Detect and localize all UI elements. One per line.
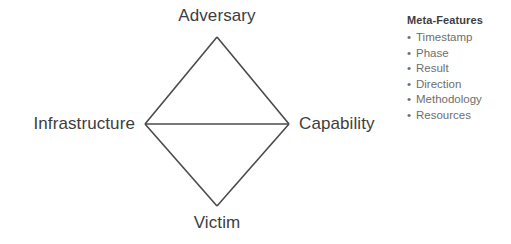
edge-victim-infrastructure <box>145 124 217 206</box>
node-label-victim: Victim <box>0 213 434 233</box>
node-label-capability: Capability <box>299 114 375 134</box>
edge-capability-victim <box>217 124 289 206</box>
list-item-label: Timestamp <box>416 31 472 43</box>
meta-features-list: • Timestamp • Phase • Result • Direction… <box>407 30 511 124</box>
list-item: • Direction <box>407 77 511 93</box>
list-item-label: Result <box>416 62 449 74</box>
edge-adversary-capability <box>217 37 289 124</box>
bullet-icon: • <box>407 108 411 124</box>
list-item-label: Methodology <box>416 93 482 105</box>
list-item-label: Phase <box>416 47 449 59</box>
list-item-label: Direction <box>416 78 461 90</box>
edge-infrastructure-adversary <box>145 37 217 124</box>
bullet-icon: • <box>407 77 411 93</box>
meta-features-panel: Meta-Features • Timestamp • Phase • Resu… <box>407 13 511 124</box>
node-label-infrastructure: Infrastructure <box>0 114 135 134</box>
bullet-icon: • <box>407 92 411 108</box>
list-item: • Resources <box>407 108 511 124</box>
bullet-icon: • <box>407 61 411 77</box>
meta-features-title: Meta-Features <box>407 13 511 28</box>
diamond-model-diagram: Adversary Infrastructure Capability Vict… <box>0 0 511 244</box>
list-item: • Result <box>407 61 511 77</box>
list-item: • Phase <box>407 46 511 62</box>
list-item-label: Resources <box>416 109 471 121</box>
bullet-icon: • <box>407 30 411 46</box>
bullet-icon: • <box>407 46 411 62</box>
list-item: • Methodology <box>407 92 511 108</box>
node-label-adversary: Adversary <box>0 6 434 26</box>
list-item: • Timestamp <box>407 30 511 46</box>
